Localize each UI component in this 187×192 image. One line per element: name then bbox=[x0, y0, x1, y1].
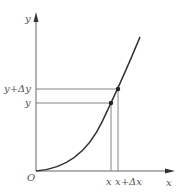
x-axis-label: x bbox=[166, 177, 172, 188]
function-curve bbox=[36, 37, 140, 171]
x-axis-arrow-icon bbox=[165, 169, 175, 174]
y-axis-label: y bbox=[24, 13, 31, 24]
point-x-y bbox=[109, 101, 113, 105]
point-xdx-ydy bbox=[116, 87, 120, 91]
y-value-label: y bbox=[24, 97, 31, 108]
origin-label: O bbox=[27, 172, 35, 183]
y-plus-dy-label: y+Δy bbox=[3, 83, 31, 94]
y-axis-arrow-icon bbox=[34, 12, 39, 22]
x-plus-dx-label: x+Δx bbox=[115, 176, 142, 187]
x-value-label: x bbox=[106, 176, 112, 187]
increment-diagram: y x O y+Δy y x x+Δx bbox=[0, 0, 187, 192]
